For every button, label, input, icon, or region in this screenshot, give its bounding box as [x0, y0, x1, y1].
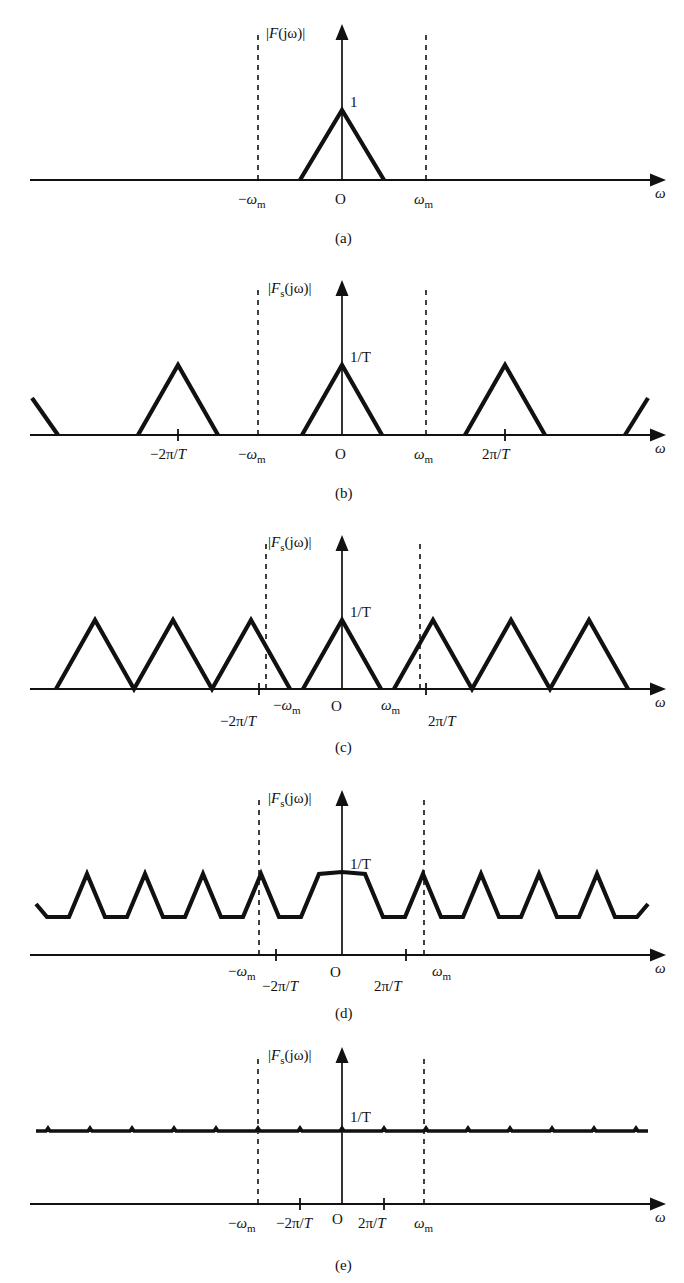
- panel-e-right-band-label: ωm: [414, 1215, 434, 1234]
- panel-e-left-harmonic-label: −2π/T: [276, 1215, 314, 1231]
- panel-d-right-harmonic-label: 2π/T: [374, 978, 403, 994]
- panel-b-replica-edge-left: [32, 398, 58, 435]
- panel-c-vertical-label: |Fs(jω)|: [268, 534, 312, 553]
- panel-d-origin-label: O: [330, 964, 341, 980]
- panel-a-vertical-label: |F(jω)|: [266, 25, 305, 42]
- panel-b-omega-axis: [30, 429, 666, 442]
- panel-a-omega-axis: [30, 174, 666, 187]
- panel-c-omega-axis: [30, 683, 666, 696]
- panel-b-left-band-label: −ωm: [238, 446, 266, 465]
- panel-e-omega-axis: [30, 1198, 666, 1211]
- panel-c-right-band-label: ωm: [381, 697, 401, 716]
- panel-b-replica-edge-right: [625, 398, 648, 435]
- panel-d-vertical-label: |Fs(jω)|: [268, 790, 312, 809]
- panel-e-origin-label: O: [332, 1211, 343, 1227]
- panel-a: |F(jω)| 1 −ωm O ωm ω (a): [30, 24, 666, 247]
- panel-c: |Fs(jω)| 1/T −2π/T −ωm O ωm 2π/T ω (c): [30, 534, 666, 756]
- panel-a-caption: (a): [335, 230, 352, 247]
- panel-a-origin-label: O: [335, 191, 346, 207]
- panel-d-left-band-label: −ωm: [228, 963, 256, 982]
- panel-e-omega-label: ω: [655, 1209, 666, 1225]
- panel-e-flat-spectrum: [36, 1128, 648, 1131]
- panel-c-omega-label: ω: [655, 694, 666, 710]
- panel-d-right-band-label: ωm: [432, 963, 452, 982]
- panel-e-caption: (e): [335, 1257, 352, 1274]
- panel-b-vertical-axis: [336, 280, 349, 435]
- panel-c-caption: (c): [335, 739, 352, 756]
- panel-a-peak-label: 1: [350, 94, 358, 110]
- panel-e-peak-label: 1/T: [350, 1109, 371, 1125]
- panel-e: |Fs(jω)| 1/T −ωm −2π/T O 2π/T ωm ω (e): [30, 1047, 666, 1274]
- panel-d-peak-label: 1/T: [350, 856, 371, 872]
- panel-d-caption: (d): [335, 1005, 353, 1022]
- panel-d: |Fs(jω)| 1/T −ωm −2π/T O 2π/T ωm ω (d): [30, 790, 666, 1022]
- panel-c-triangle-train: [56, 620, 290, 689]
- panel-e-left-band-label: −ωm: [228, 1215, 256, 1234]
- panel-b-right-harmonic-label: 2π/T: [482, 446, 511, 462]
- panel-c-triangle-train-right: [394, 620, 628, 689]
- panel-b-replica-plus-one: [465, 365, 545, 435]
- panel-b-peak-label: 1/T: [350, 349, 371, 365]
- panel-c-left-harmonic-label: −2π/T: [220, 713, 258, 729]
- panel-c-vertical-axis: [336, 535, 349, 689]
- panel-a-left-band-label: −ωm: [238, 191, 266, 210]
- panel-a-right-band-label: ωm: [414, 191, 434, 210]
- panel-c-origin-label: O: [331, 698, 342, 714]
- panel-b-caption: (b): [335, 485, 353, 502]
- panel-b-vertical-label: |Fs(jω)|: [268, 280, 312, 299]
- panel-e-right-harmonic-label: 2π/T: [358, 1215, 387, 1231]
- panel-d-omega-label: ω: [655, 960, 666, 976]
- panel-b-right-band-label: ωm: [414, 446, 434, 465]
- panel-b-omega-label: ω: [655, 440, 666, 456]
- panel-e-vertical-label: |Fs(jω)|: [268, 1047, 312, 1066]
- panel-d-left-harmonic-label: −2π/T: [262, 978, 300, 994]
- panel-c-peak-label: 1/T: [350, 604, 371, 620]
- figure-sampling-spectra: |F(jω)| 1 −ωm O ωm ω (a) |Fs(jω)| 1/T −2…: [0, 0, 684, 1283]
- panel-b: |Fs(jω)| 1/T −2π/T −ωm O ωm 2π/T ω (b): [30, 280, 666, 502]
- panel-a-vertical-axis: [336, 24, 349, 180]
- panel-b-left-harmonic-label: −2π/T: [150, 446, 188, 462]
- panel-b-origin-label: O: [335, 446, 346, 462]
- panel-b-replica-minus-one: [138, 365, 218, 435]
- panel-a-omega-label: ω: [655, 185, 666, 201]
- panel-c-right-harmonic-label: 2π/T: [428, 713, 457, 729]
- panel-c-left-band-label: −ωm: [273, 697, 301, 716]
- spectrum-figure-svg: |F(jω)| 1 −ωm O ωm ω (a) |Fs(jω)| 1/T −2…: [0, 0, 684, 1283]
- panel-d-omega-axis: [30, 949, 666, 962]
